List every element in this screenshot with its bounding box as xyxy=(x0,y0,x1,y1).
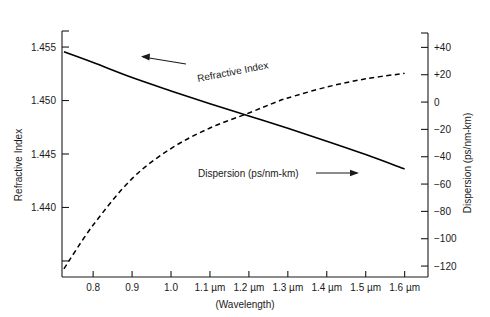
x-tick-label-2: 1.0 xyxy=(164,282,178,293)
x-tick-label-1: 0.9 xyxy=(125,282,139,293)
right-tick-label-8: −120 xyxy=(434,261,457,272)
right-tick-label-4: −40 xyxy=(434,151,451,162)
left-tick-label-3: 1.440 xyxy=(31,202,56,213)
dispersion-arrow-icon xyxy=(316,170,359,177)
right-tick-label-7: −100 xyxy=(434,233,457,244)
left-axis-title: Refractive Index xyxy=(13,129,24,201)
x-tick-label-6: 1.4 µm xyxy=(311,282,342,293)
refractive-index-arrow-icon xyxy=(141,53,186,64)
dispersion-annotation: Dispersion (ps/nm-km) xyxy=(198,168,359,179)
x-tick-label-4: 1.2 µm xyxy=(234,282,265,293)
x-tick-label-8: 1.6 µm xyxy=(389,282,420,293)
right-axis-title: Dispersion (ps/nm-km) xyxy=(462,113,473,214)
left-axis-ticks xyxy=(62,47,69,261)
right-tick-label-2: 0 xyxy=(434,97,440,108)
x-tick-label-5: 1.3 µm xyxy=(272,282,303,293)
left-tick-label-0: 1.455 xyxy=(31,42,56,53)
right-tick-label-1: +20 xyxy=(434,69,451,80)
refractive-index-dispersion-chart: 1.4551.4501.4451.440 +40+200−20−40−60−80… xyxy=(0,0,490,317)
left-tick-label-1: 1.450 xyxy=(31,95,56,106)
right-tick-label-0: +40 xyxy=(434,42,451,53)
x-axis-title: (Wavelength) xyxy=(215,299,274,310)
chart-canvas: 1.4551.4501.4451.440 +40+200−20−40−60−80… xyxy=(0,0,490,317)
x-tick-label-7: 1.5 µm xyxy=(350,282,381,293)
right-axis-ticks xyxy=(421,47,428,266)
right-axis-tick-labels: +40+200−20−40−60−80−100−120 xyxy=(434,42,457,272)
x-axis-ticks xyxy=(93,271,404,277)
left-axis-tick-labels: 1.4551.4501.4451.440 xyxy=(31,42,56,213)
refractive-index-annotation-label: Refractive Index xyxy=(196,59,269,84)
refractive-index-annotation: Refractive Index xyxy=(141,53,269,84)
x-tick-label-0: 0.8 xyxy=(86,282,100,293)
x-axis-tick-labels: 0.80.91.01.1 µm1.2 µm1.3 µm1.4 µm1.5 µm1… xyxy=(86,282,420,293)
right-tick-label-5: −60 xyxy=(434,179,451,190)
x-tick-label-3: 1.1 µm xyxy=(195,282,226,293)
dispersion-annotation-label: Dispersion (ps/nm-km) xyxy=(198,168,299,179)
left-tick-label-2: 1.445 xyxy=(31,149,56,160)
right-tick-label-6: −80 xyxy=(434,206,451,217)
right-tick-label-3: −20 xyxy=(434,124,451,135)
